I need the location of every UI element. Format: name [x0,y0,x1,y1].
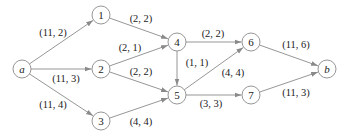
edge-label-5-7: (3, 3) [200,98,223,110]
node-label: 3 [98,115,104,127]
flow-network-diagram: (11, 2)(11, 3)(11, 4)(2, 2)(2, 1)(2, 2)(… [0,0,345,137]
edge-label-4-6: (2, 2) [202,28,225,40]
edge-labels-layer: (11, 2)(11, 3)(11, 4)(2, 2)(2, 1)(2, 2)(… [39,13,310,128]
node-1: 1 [92,6,110,24]
node-label: 5 [174,89,180,101]
node-5: 5 [168,86,186,104]
edge-label-1-4: (2, 2) [130,13,153,25]
edge-label-2-5: (2, 2) [130,66,153,78]
node-6: 6 [242,33,260,51]
node-3: 3 [92,112,110,130]
edge-label-a-2: (11, 3) [52,73,80,85]
nodes-layer: a1234567b [13,6,336,130]
node-4: 4 [168,33,186,51]
node-label: 1 [98,9,104,21]
edge-label-4-5: (1, 1) [186,57,209,69]
node-label: 2 [98,63,104,75]
edge-label-5-6: (4, 4) [222,67,245,79]
node-label: 6 [248,36,254,48]
diagram-canvas: (11, 2)(11, 3)(11, 4)(2, 2)(2, 1)(2, 2)(… [0,0,345,137]
edge-label-a-1: (11, 2) [39,27,67,39]
node-label: a [19,63,25,75]
edge-label-3-5: (4, 4) [130,116,153,128]
node-label: b [324,63,330,75]
node-7: 7 [242,86,260,104]
node-label: 4 [174,36,180,48]
edge-label-a-3: (11, 4) [39,99,67,111]
node-a: a [13,60,31,78]
edge-label-2-4: (2, 1) [119,42,142,54]
node-2: 2 [92,60,110,78]
node-b: b [318,60,336,78]
edge-label-6-b: (11, 6) [282,39,310,51]
node-label: 7 [248,89,254,101]
edge-label-7-b: (11, 3) [282,87,310,99]
